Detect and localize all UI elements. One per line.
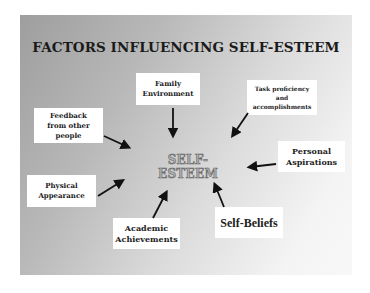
arrow-icon: [153, 193, 166, 218]
arrow-icon: [233, 113, 248, 135]
arrows: [20, 15, 352, 275]
arrow-icon: [250, 164, 276, 167]
arrow-icon: [104, 136, 128, 147]
slide: FACTORS INFLUENCING SELF-ESTEEM Family E…: [20, 15, 352, 275]
arrow-icon: [98, 181, 122, 196]
arrow-icon: [215, 185, 224, 207]
